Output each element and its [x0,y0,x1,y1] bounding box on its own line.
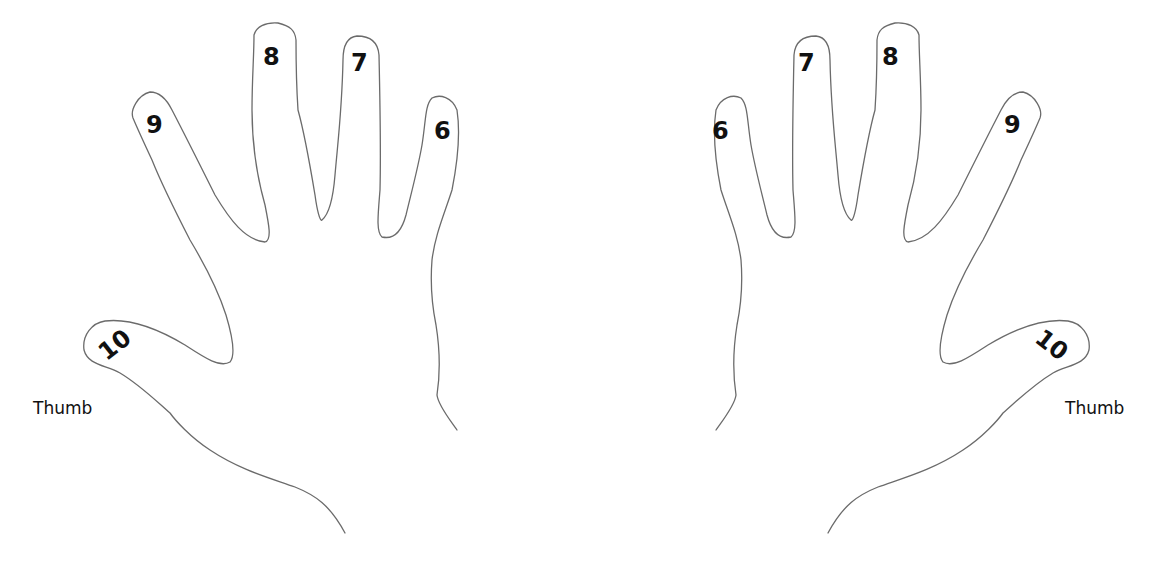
left-thumb-caption: Thumb [33,400,92,417]
right-pinky-number: 6 [712,119,729,143]
left-ring-number: 7 [351,51,368,75]
right-index-number: 9 [1004,113,1021,137]
left-index-number: 9 [146,113,163,137]
left-middle-number: 8 [263,45,280,69]
hands-drawing [0,0,1173,564]
left-pinky-number: 6 [434,119,451,143]
right-ring-number: 7 [798,51,815,75]
right-middle-number: 8 [882,45,899,69]
left-hand-outline [84,23,459,533]
right-thumb-caption: Thumb [1065,400,1124,417]
right-hand-outline [715,23,1090,533]
